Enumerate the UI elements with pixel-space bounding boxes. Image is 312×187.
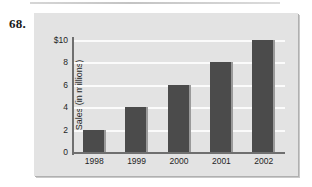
bar: [125, 107, 148, 152]
y-tick-label: 4: [63, 103, 68, 112]
bar: [252, 40, 275, 152]
bar: [210, 62, 233, 152]
scan-artifact-line: [30, 2, 280, 4]
x-tick-label: 2000: [159, 157, 199, 166]
y-tick-label: 2: [63, 125, 68, 134]
plot-area: 02468$10 19981999200020012002: [73, 40, 285, 152]
x-tick-label: 1998: [74, 157, 114, 166]
bar: [83, 130, 106, 152]
y-axis-line: [72, 37, 74, 155]
x-tick-label: 1999: [117, 157, 157, 166]
bar: [168, 85, 191, 152]
problem-number: 68.: [9, 16, 26, 32]
y-tick-label: 6: [63, 81, 68, 90]
y-tick-label: 0: [63, 148, 68, 157]
bar-chart-panel: Sales (in millions) 02468$10 19981999200…: [34, 13, 298, 176]
x-axis-line: [72, 152, 285, 154]
y-tick-label: 8: [63, 58, 68, 67]
y-tick-label: $10: [54, 36, 68, 45]
x-tick-label: 2002: [244, 157, 284, 166]
x-tick-label: 2001: [201, 157, 241, 166]
